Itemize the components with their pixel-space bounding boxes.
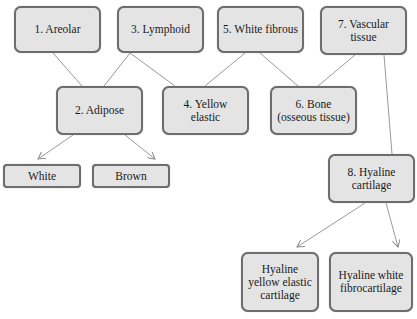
node-white-fibrous: 5. White fibrous — [217, 6, 304, 53]
edge-hyaline-white — [386, 203, 398, 247]
edge-lymphoid-yellow — [130, 53, 175, 86]
edge-areolar-adipose — [53, 53, 82, 86]
edge-hyaline-yellow — [297, 203, 365, 247]
edge-whitefibrous-yellow — [205, 53, 245, 86]
node-vascular: 7. Vascular tissue — [320, 6, 407, 55]
node-brown: Brown — [92, 164, 170, 188]
edge-adipose-brown — [125, 135, 155, 159]
node-hyaline-yellow-elastic: Hyaline yellow elastic cartilage — [241, 252, 319, 312]
edge-vascular-hyaline — [384, 55, 392, 154]
edge-adipose-white — [38, 135, 73, 159]
edge-whitefibrous-bone — [260, 53, 298, 86]
node-white: White — [3, 164, 81, 188]
node-adipose: 2. Adipose — [56, 86, 143, 135]
node-yellow-elastic: 4. Yellow elastic — [162, 86, 249, 135]
node-hyaline-white-fibrocartilage: Hyaline white fibrocartilage — [329, 252, 413, 312]
node-bone: 6. Bone (osseous tissue) — [270, 86, 357, 135]
node-hyaline: 8. Hyaline cartilage — [328, 154, 415, 203]
node-areolar: 1. Areolar — [14, 6, 101, 53]
edge-vascular-bone — [318, 55, 355, 86]
node-lymphoid: 3. Lymphoid — [117, 6, 204, 53]
edge-lymphoid-adipose — [104, 53, 130, 86]
